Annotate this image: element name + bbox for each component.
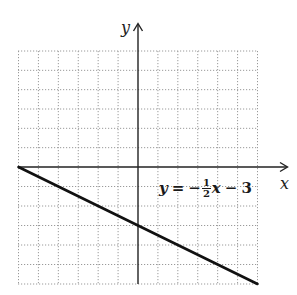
equation-constant: 3 (241, 181, 251, 196)
equation-lhs: y (159, 181, 168, 196)
coordinate-plane (0, 0, 297, 295)
equation-variable: x (212, 181, 221, 196)
equation-fraction: 1 2 (202, 178, 211, 199)
fraction-denominator: 2 (202, 189, 211, 199)
equation-minus: − (188, 181, 201, 196)
y-axis-label: y (121, 20, 130, 36)
equation-operator: − (225, 181, 238, 196)
equation-equals: = (172, 181, 185, 196)
equation-label: y = − 1 2 x − 3 (159, 178, 252, 199)
x-axis-label: x (280, 176, 289, 192)
